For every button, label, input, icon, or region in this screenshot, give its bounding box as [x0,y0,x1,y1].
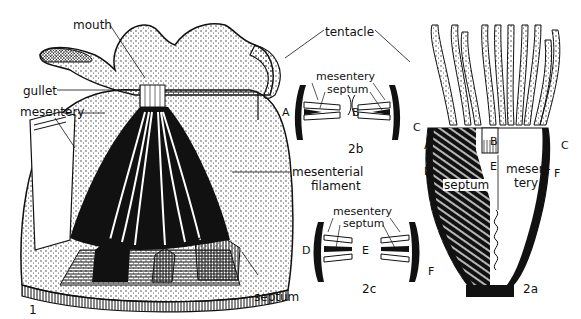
letter-B-2a: B [490,136,498,147]
letter-C-2a: C [561,140,569,151]
letter-F-2a: F [554,168,560,179]
label-gullet: gullet [23,85,57,97]
letter-F-2c: F [428,266,434,277]
letter-A-2a: A [424,140,432,151]
letter-D-2a: D [424,166,432,177]
label-septum-fig2c: septum [343,218,384,230]
letter-E-2a: E [490,161,497,172]
letter-B-2b: B [352,107,360,118]
letter-A-2b: A [282,107,290,118]
letter-D-2c: D [302,245,310,256]
label-mesenterial-filament-line2: filament [311,180,361,192]
figure-number-1: 1 [29,304,37,316]
label-mouth: mouth [73,19,112,31]
label-septum-fig1: septum [254,291,299,303]
letter-E-2c: E [362,245,369,256]
label-mesentery-fig1: mesentery [20,106,84,118]
label-septum-fig2b: septum [327,84,368,96]
label-mesentery-fig2a-line1: mesen- [506,163,551,175]
label-mesentery-fig2a-line2: tery [514,177,538,189]
label-septum-fig2a: septum [443,179,490,191]
label-mesenterial-filament-line1: mesenterial [292,166,363,178]
figure-number-2b: 2b [348,143,363,155]
label-mesentery-fig2b: mesentery [316,71,375,83]
figure-number-2c: 2c [362,283,376,295]
diagram-canvas: mouth gullet mesentery tentacle mesenter… [0,0,581,319]
letter-C-2b: C [413,122,421,133]
label-tentacle: tentacle [325,26,374,38]
figure-number-2a: 2a [523,283,538,295]
